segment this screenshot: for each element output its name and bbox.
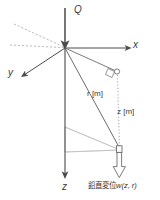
displacement-arrow-icon <box>113 152 125 177</box>
radial-ray-surface <box>65 48 116 71</box>
x-axis-label: x <box>133 40 138 50</box>
surface-point-circle-icon <box>114 69 119 74</box>
radial-distance-label: r [m] <box>87 90 103 98</box>
depth-label: z [m] <box>117 108 134 116</box>
y-axis <box>24 48 65 75</box>
load-label: Q <box>74 5 82 15</box>
displacement-caption-jp: 鉛直変位 <box>88 181 116 190</box>
vertical-plane-outline <box>65 127 120 152</box>
z-axis-label: z <box>62 182 67 192</box>
displacement-caption: 鉛直変位w(z, r) <box>88 182 137 190</box>
y-axis-label: y <box>8 68 13 78</box>
displacement-caption-args: (z, r) <box>121 181 136 190</box>
depth-point-square-icon <box>116 146 122 153</box>
surface-reference-lines <box>10 24 64 48</box>
diagram-canvas <box>0 0 160 200</box>
figure-container: Q x y z r [m] z [m] 鉛直変位w(z, r) <box>0 0 160 200</box>
